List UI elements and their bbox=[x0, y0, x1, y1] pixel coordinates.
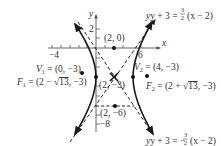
label-asymptote-positive: yy + 3 = bbox=[145, 11, 180, 21]
asymptote-negative-numerator: 3 bbox=[184, 132, 187, 138]
label-asymptote-negative: yy + 3 = − bbox=[145, 136, 185, 146]
vertex-v1 bbox=[94, 75, 98, 79]
x-axis bbox=[48, 45, 160, 48]
x-tick-label-6: 6 bbox=[138, 50, 143, 60]
asymptote-positive-rhs: (x − 2) bbox=[187, 11, 213, 22]
y-tick-label-2: 2 bbox=[89, 24, 94, 34]
label-focus-f2: F2 = (2 + √13, −3) bbox=[145, 81, 216, 92]
asymptote-positive-denominator: 2 bbox=[181, 15, 184, 21]
y-axis-label: y bbox=[88, 9, 94, 19]
label-vertex-v2: V2 = (4, −3) bbox=[134, 62, 179, 73]
asymptote-negative-rhs: (x − 2) bbox=[190, 136, 216, 146]
y-tick-label-neg8: −8 bbox=[100, 119, 110, 129]
label-focus-f1: F1 = (2 − √13, −3) bbox=[16, 77, 87, 88]
hyperbola-right-branch bbox=[133, 22, 153, 134]
label-point-2-minus-6: (2, −6) bbox=[100, 108, 126, 119]
label-vertex-v1: V1 = (0, −3) bbox=[36, 64, 81, 75]
asymptote-positive-numerator: 3 bbox=[181, 7, 184, 13]
point-2-0 bbox=[112, 46, 116, 50]
asymptote-negative-denominator: 2 bbox=[184, 140, 187, 146]
hyperbola-diagram: y x −4 6 2 −8 (2, 0) (2, −3) (2, −6) V1 … bbox=[0, 0, 221, 146]
label-center: (2, −3) bbox=[99, 80, 125, 91]
x-axis-label: x bbox=[161, 38, 167, 48]
focus-f2 bbox=[145, 74, 149, 78]
label-point-2-0: (2, 0) bbox=[104, 33, 125, 44]
vertex-v2 bbox=[131, 75, 135, 79]
x-tick-label-neg4: −4 bbox=[49, 50, 59, 60]
